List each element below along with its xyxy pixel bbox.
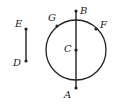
point-e [24, 27, 27, 30]
point-d [24, 59, 27, 62]
point-a [74, 86, 77, 89]
label-e: E [14, 18, 23, 29]
label-f: F [99, 19, 108, 30]
label-a: A [63, 89, 71, 100]
label-c: C [64, 43, 72, 54]
geometry-diagram: E D B G F C A [0, 0, 114, 105]
label-d: D [12, 57, 21, 68]
point-c [74, 48, 77, 51]
point-g [55, 24, 58, 27]
label-g: G [48, 12, 56, 23]
point-f [94, 27, 97, 30]
label-b: B [79, 5, 87, 16]
point-b [74, 9, 77, 12]
